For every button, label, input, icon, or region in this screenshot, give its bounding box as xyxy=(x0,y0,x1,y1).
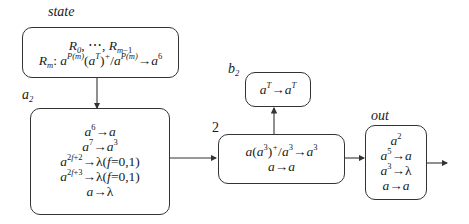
a2-rule-5: a→λ xyxy=(87,184,114,199)
out-initial-spikes: a2 xyxy=(391,133,402,148)
a2-label: a2 xyxy=(22,87,33,103)
edge-weight-label: 2 xyxy=(212,120,219,136)
middle-neuron: a(a3)+/a3→a3 a→a xyxy=(218,134,345,184)
out-neuron: a2 a5→a a3→λ a→a xyxy=(365,125,427,200)
b2-neuron: aT→aT xyxy=(245,72,311,107)
a2-rule-4: a2f+3→λ(f=0,1) xyxy=(60,169,140,184)
out-rule-2: a3→λ xyxy=(380,163,411,178)
middle-rule-2: a→a xyxy=(268,159,295,174)
state-label: state xyxy=(48,4,74,20)
out-label: out xyxy=(371,108,389,124)
a2-neuron: a6→a a7→a3 a2f+2→λ(f=0,1) a2f+3→λ(f=0,1)… xyxy=(30,108,170,215)
middle-rule-1: a(a3)+/a3→a3 xyxy=(246,144,318,159)
b2-rule-1: aT→aT xyxy=(260,82,296,97)
b2-label: b2 xyxy=(228,61,239,77)
out-rule-1: a5→a xyxy=(380,148,411,163)
state-rule-line-2: Rm: aP(m)(aT)+/aP(m)→a6 xyxy=(39,53,163,68)
state-neuron: R0, ⋯, Rm−1 Rm: aP(m)(aT)+/aP(m)→a6 xyxy=(22,27,179,78)
a2-rule-2: a7→a3 xyxy=(82,139,118,154)
out-rule-3: a→a xyxy=(383,178,410,193)
